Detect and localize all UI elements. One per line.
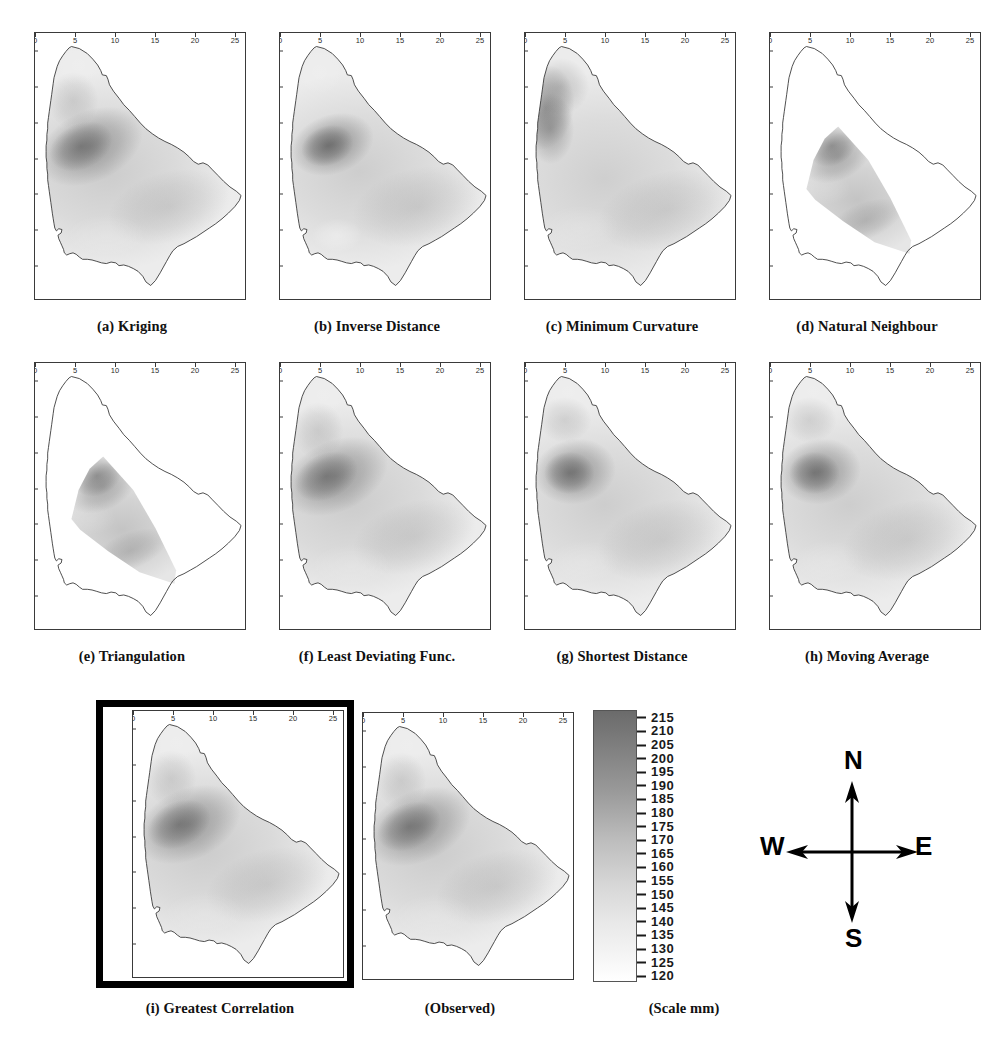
x-axis-tick-mark-top xyxy=(35,363,36,367)
plot-area-f: 051015202530350510152025 xyxy=(279,362,491,630)
island-raster xyxy=(770,363,980,629)
colorbar-tick-dash xyxy=(637,921,646,923)
x-axis-tick-mark-top xyxy=(173,711,174,715)
y-axis-tick-mark-right xyxy=(132,729,133,730)
colorbar-tick-dash xyxy=(637,853,646,855)
island-raster xyxy=(363,713,573,979)
x-axis-tick-mark-top xyxy=(565,363,566,367)
y-axis-tick-mark-right xyxy=(769,122,770,123)
x-axis-tick-mark-top xyxy=(850,33,851,37)
panel-g[interactable]: 051015202530350510152025 xyxy=(498,362,746,630)
x-axis-tick-mark-top xyxy=(480,363,481,367)
y-axis-tick-mark-right xyxy=(132,800,133,801)
x-axis-tick-mark-top xyxy=(890,33,891,37)
y-axis-tick-mark-right xyxy=(34,122,35,123)
x-axis-tick-mark-top xyxy=(525,33,526,37)
colorbar-tick-dash xyxy=(637,717,646,719)
x-axis-tick-mark-top xyxy=(443,713,444,717)
plot-area-d: 051015202530350510152025 xyxy=(769,32,981,300)
y-axis-tick-mark-right xyxy=(524,417,525,418)
x-axis-tick-mark-top xyxy=(685,33,686,37)
x-axis-tick-mark-top xyxy=(970,363,971,367)
island-raster xyxy=(525,33,735,299)
y-axis-tick-mark-right xyxy=(34,488,35,489)
y-axis-tick-mark-right xyxy=(769,265,770,266)
panel-d[interactable]: 051015202530350510152025 xyxy=(743,32,991,300)
panel-e[interactable]: 051015202530350510152025 xyxy=(8,362,256,630)
colorbar-tick-dash xyxy=(637,934,646,936)
plot-area-h: 051015202530350510152025 xyxy=(769,362,981,630)
y-axis-tick-mark-right xyxy=(279,452,280,453)
y-axis-tick-mark-right xyxy=(279,51,280,52)
y-axis-tick-mark-right xyxy=(34,87,35,88)
y-axis-tick-mark-right xyxy=(769,452,770,453)
x-axis-tick-mark-top xyxy=(320,363,321,367)
y-axis-tick-mark-right xyxy=(524,488,525,489)
y-axis-tick-mark-right xyxy=(279,524,280,525)
colorbar-tick-dash xyxy=(637,866,646,868)
x-axis-tick-mark-top xyxy=(480,33,481,37)
panel-caption-obs: (Observed) xyxy=(336,1000,584,1017)
y-axis-tick: 0 xyxy=(362,977,363,981)
x-axis-tick-mark-top xyxy=(213,711,214,715)
x-axis-tick-mark-top xyxy=(115,363,116,367)
x-axis-tick-mark-top xyxy=(195,363,196,367)
y-axis-tick-mark-right xyxy=(279,560,280,561)
plot-area-a: 051015202530350510152025 xyxy=(34,32,246,300)
y-axis-tick-mark-right xyxy=(524,87,525,88)
x-axis-tick-mark-top xyxy=(360,33,361,37)
x-axis-tick-mark-top xyxy=(930,33,931,37)
y-axis-tick-mark-right xyxy=(279,230,280,231)
y-axis-tick: 0 xyxy=(769,627,770,631)
y-axis-tick-mark-right xyxy=(279,122,280,123)
colorbar-tick-dash xyxy=(637,798,646,800)
compass-west-label: W xyxy=(760,831,785,862)
x-axis-tick-mark-top xyxy=(235,33,236,37)
x-axis-tick-mark-top xyxy=(970,33,971,37)
colorbar-tick-dash xyxy=(637,785,646,787)
y-axis-tick-mark-right xyxy=(34,452,35,453)
x-axis-tick-mark-top xyxy=(360,363,361,367)
y-axis-tick-mark-right xyxy=(769,488,770,489)
y-axis-tick-mark-right xyxy=(524,265,525,266)
compass-east-label: E xyxy=(915,831,932,862)
y-axis-tick-mark-right xyxy=(34,158,35,159)
panel-b[interactable]: 051015202530350510152025 xyxy=(253,32,501,300)
y-axis-tick: 0 xyxy=(132,975,133,979)
panel-i[interactable]: 051015202530350510152025 xyxy=(96,700,344,988)
panel-caption-h: (h) Moving Average xyxy=(743,648,991,665)
panel-caption-c: (c) Minimum Curvature xyxy=(498,318,746,335)
island-raster xyxy=(770,33,980,299)
y-axis-tick-mark-right xyxy=(524,381,525,382)
colorbar-tick-dash xyxy=(637,744,646,746)
panel-f[interactable]: 051015202530350510152025 xyxy=(253,362,501,630)
y-axis-tick-mark-right xyxy=(34,51,35,52)
colorbar-tick-dash xyxy=(637,880,646,882)
y-axis-tick-mark-right xyxy=(362,802,363,803)
y-axis-tick-mark-right xyxy=(769,87,770,88)
colorbar-tick-dash xyxy=(637,758,646,760)
y-axis-tick-mark-right xyxy=(362,945,363,946)
plot-area-c: 051015202530350510152025 xyxy=(524,32,736,300)
panel-h[interactable]: 051015202530350510152025 xyxy=(743,362,991,630)
panel-c[interactable]: 051015202530350510152025 xyxy=(498,32,746,300)
x-axis-tick-mark-top xyxy=(363,713,364,717)
colorbar-tick-dash xyxy=(637,730,646,732)
highlight-border: 051015202530350510152025 xyxy=(96,700,354,988)
plot-area-i: 051015202530350510152025 xyxy=(132,710,344,978)
island-raster xyxy=(280,363,490,629)
panel-obs[interactable]: 051015202530350510152025 xyxy=(336,712,584,980)
colorbar-tick-dash xyxy=(637,812,646,814)
x-axis-tick-mark-top xyxy=(155,33,156,37)
x-axis-tick-mark-top xyxy=(280,33,281,37)
y-axis-tick-mark-right xyxy=(524,595,525,596)
island-raster xyxy=(35,33,245,299)
island-raster xyxy=(35,363,245,629)
x-axis-tick-mark-top xyxy=(403,713,404,717)
x-axis-tick-mark-top xyxy=(293,711,294,715)
y-axis-tick-mark-right xyxy=(769,158,770,159)
y-axis-tick-mark-right xyxy=(132,836,133,837)
panel-a[interactable]: 051015202530350510152025 xyxy=(8,32,256,300)
colorbar-tick-labels: 2152102052001951901851801751701651601551… xyxy=(637,710,727,982)
y-axis-tick-mark-right xyxy=(769,524,770,525)
